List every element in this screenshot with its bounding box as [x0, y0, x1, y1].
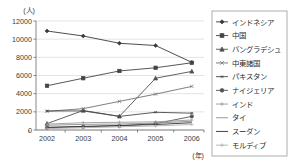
- data-point-marker: [81, 34, 85, 38]
- x-axis-tick-label: 2002: [39, 134, 55, 143]
- data-point-marker: [45, 84, 48, 87]
- data-point-marker: [118, 41, 122, 45]
- legend-label: スーダン: [232, 127, 260, 136]
- series-line: [47, 86, 192, 111]
- legend-label: 中東諸国: [232, 59, 260, 68]
- y-axis-unit-label: (人): [23, 6, 35, 15]
- data-point-marker: [220, 34, 224, 38]
- y-axis-tick-label: 10000: [12, 35, 32, 44]
- data-point-marker: [82, 77, 85, 80]
- data-point-marker: [154, 44, 158, 48]
- chart-container: 020004000600080001000012000 200220032004…: [0, 0, 289, 164]
- legend-label: モルディブ: [232, 141, 267, 150]
- legend-label: インド: [232, 100, 253, 109]
- legend-label: バングラデシュ: [232, 45, 281, 54]
- data-point-marker: [220, 88, 224, 92]
- data-point-marker: [45, 29, 49, 33]
- series-4: [45, 85, 193, 113]
- y-axis-tick-label: 4000: [16, 89, 32, 98]
- y-axis-tick-label: 8000: [16, 53, 32, 62]
- x-axis-tick-label: 2004: [111, 134, 127, 143]
- legend-label: パキスタン: [232, 72, 267, 81]
- series-3: [45, 69, 194, 125]
- y-axis-tick-label: 2000: [16, 107, 32, 116]
- y-axis-tick-label: 12000: [12, 17, 32, 26]
- data-point-marker: [154, 66, 157, 69]
- x-axis-tick-labels: 20022003200420052006: [39, 134, 200, 143]
- data-point-marker: [190, 61, 193, 64]
- gridlines: [36, 21, 204, 130]
- y-axis-tick-labels: 020004000600080001000012000: [12, 17, 32, 135]
- series-layer: [45, 29, 194, 130]
- data-point-marker: [190, 69, 194, 73]
- data-point-marker: [190, 115, 193, 118]
- series-line: [47, 63, 192, 86]
- data-point-marker: [118, 69, 121, 72]
- legend-label: インドネシア: [232, 18, 274, 27]
- line-chart: 020004000600080001000012000 200220032004…: [0, 0, 289, 164]
- x-axis-tick-label: 2003: [75, 134, 91, 143]
- x-axis-tick-label: 2006: [184, 134, 200, 143]
- y-axis-tick-label: 6000: [16, 71, 32, 80]
- series-1: [45, 29, 194, 64]
- chart-legend: インドネシア中国バングラデシュ中東諸国パキスタンナイジェリアインドタイスーダンモ…: [212, 11, 287, 156]
- series-2: [45, 61, 193, 87]
- x-axis-unit-label: (年): [192, 151, 204, 160]
- legend-label: タイ: [232, 113, 246, 122]
- x-axis-tick-label: 2005: [148, 134, 164, 143]
- legend-label: 中国: [232, 31, 246, 40]
- legend-label: ナイジェリア: [232, 86, 274, 95]
- y-axis-tick-label: 0: [28, 126, 32, 135]
